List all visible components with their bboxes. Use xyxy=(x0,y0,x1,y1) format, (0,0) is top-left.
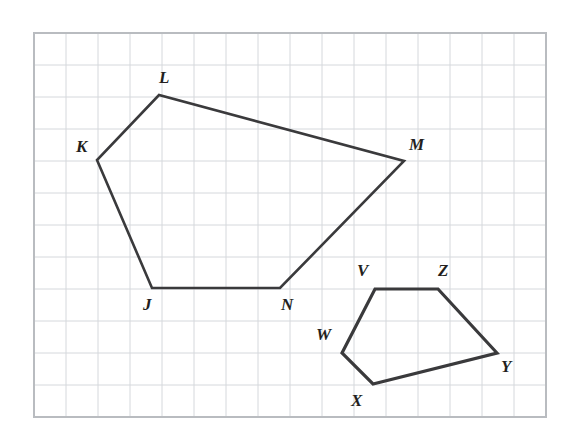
vertex-label-z: Z xyxy=(438,262,448,279)
vertex-label-l: L xyxy=(159,69,169,86)
vertex-label-v: V xyxy=(357,262,368,279)
vertex-label-m: M xyxy=(409,136,424,153)
vertex-label-n: N xyxy=(281,296,293,313)
vertex-label-j: J xyxy=(143,296,152,313)
grid-and-polygons-canvas xyxy=(0,0,583,448)
polygons xyxy=(97,95,497,384)
vertex-label-k: K xyxy=(76,138,87,155)
vertex-label-w: W xyxy=(316,326,331,343)
geometry-figure: JKLMNVZWXY xyxy=(0,0,583,448)
polygon-jklmn xyxy=(97,95,404,288)
vertex-label-y: Y xyxy=(501,358,511,375)
vertex-label-x: X xyxy=(351,392,362,409)
polygon-vwxyz xyxy=(342,289,497,384)
